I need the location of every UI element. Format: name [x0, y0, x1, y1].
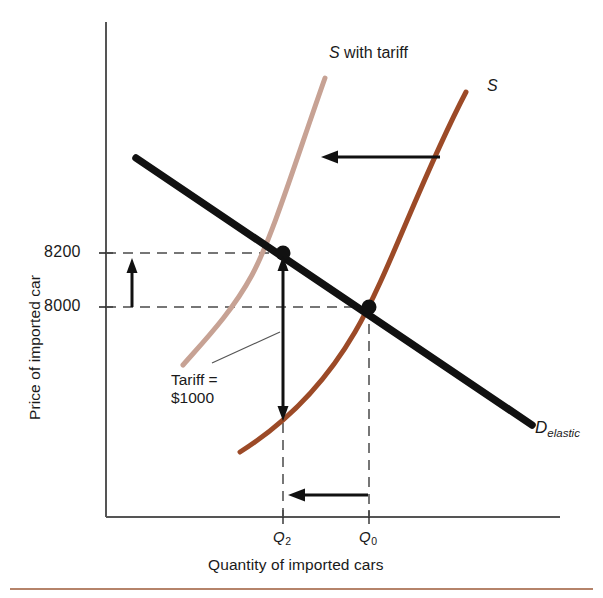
- price-increase-arrow: [127, 258, 138, 307]
- supply-shift-arrow: [321, 151, 440, 164]
- y-tick-label-8200: 8200: [44, 243, 81, 261]
- x-tick-label-q2: Q2: [273, 528, 291, 545]
- supply-label-text: S: [487, 77, 498, 94]
- supply-with-tariff-label: S with tariff: [329, 44, 408, 62]
- q0-subscript: 0: [371, 535, 377, 547]
- demand-label-letter: D: [535, 418, 547, 437]
- supply-with-tariff-curve: [183, 78, 325, 365]
- demand-label-subscript: elastic: [547, 427, 580, 439]
- tariff-supply-demand-figure: Price of imported car Quantity of import…: [0, 0, 603, 598]
- chart-canvas: [0, 0, 603, 598]
- free-trade-equilibrium-point: [362, 300, 377, 315]
- tariff-annotation-line1: Tariff =: [171, 371, 218, 389]
- demand-label: Delastic: [535, 418, 580, 438]
- tariff-measure-arrow: [278, 256, 289, 421]
- q0-letter: Q: [359, 528, 371, 545]
- supply-label: S: [487, 77, 498, 95]
- supply-with-tariff-label-s: S: [329, 44, 340, 61]
- supply-with-tariff-label-rest: with tariff: [340, 44, 408, 61]
- quantity-decrease-arrow: [288, 489, 368, 502]
- q2-letter: Q: [273, 528, 285, 545]
- y-axis-title: Price of imported car: [26, 275, 44, 420]
- supply-curve: [240, 92, 466, 452]
- x-tick-label-q0: Q0: [359, 528, 377, 545]
- y-tick-label-8000: 8000: [44, 297, 81, 315]
- tariff-annotation-line2: $1000: [171, 389, 218, 407]
- q2-subscript: 2: [285, 535, 291, 547]
- x-axis-title: Quantity of imported cars: [208, 556, 384, 574]
- tariff-annotation: Tariff = $1000: [171, 371, 218, 407]
- tariff-leader-line: [212, 332, 280, 363]
